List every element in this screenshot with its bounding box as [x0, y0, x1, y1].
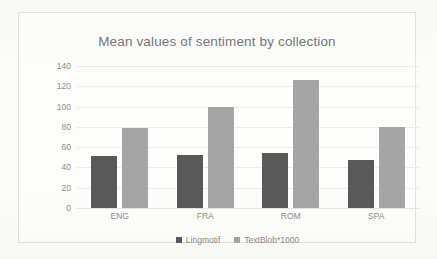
chart-figure: Mean values of sentiment by collection 0… [0, 0, 437, 259]
y-tick-label-0: 0 [66, 203, 71, 213]
x-tick-label-rom: ROM [281, 211, 301, 221]
legend-item-textblob1000[interactable]: TextBlob*1000 [234, 235, 299, 245]
x-tick-label-eng: ENG [111, 211, 129, 221]
bar-eng-lingmotif [91, 156, 117, 208]
bar-rom-lingmotif [262, 153, 288, 208]
chart-title: Mean values of sentiment by collection [19, 34, 415, 49]
y-tick-label-40: 40 [62, 162, 71, 172]
bar-spa-lingmotif [348, 160, 374, 208]
y-tick-label-100: 100 [57, 102, 71, 112]
x-axis-tick-labels: ENGFRAROMSPA [77, 211, 419, 225]
legend-item-lingmotif[interactable]: Lingmotif [176, 235, 221, 245]
bar-group-eng [77, 66, 163, 208]
gridline-0 [77, 208, 419, 209]
bar-fra-lingmotif [177, 155, 203, 208]
chart-plot-frame: Mean values of sentiment by collection 0… [18, 12, 416, 243]
bar-eng-textblob1000 [122, 128, 148, 208]
bar-group-fra [163, 66, 249, 208]
y-axis-tick-labels: 020406080100120140 [43, 66, 71, 208]
bar-spa-textblob1000 [379, 127, 405, 208]
bar-group-spa [334, 66, 420, 208]
chart-bars-area [77, 66, 419, 208]
y-tick-label-80: 80 [62, 122, 71, 132]
legend-swatch-icon [176, 237, 182, 243]
chart-legend: LingmotifTextBlob*1000 [19, 235, 437, 245]
bar-group-rom [248, 66, 334, 208]
bar-fra-textblob1000 [208, 107, 234, 208]
y-tick-label-20: 20 [62, 183, 71, 193]
x-tick-label-spa: SPA [368, 211, 384, 221]
bar-rom-textblob1000 [293, 80, 319, 208]
x-tick-label-fra: FRA [197, 211, 214, 221]
legend-label: Lingmotif [186, 235, 221, 245]
y-tick-label-120: 120 [57, 81, 71, 91]
legend-swatch-icon [234, 237, 240, 243]
y-tick-label-60: 60 [62, 142, 71, 152]
legend-label: TextBlob*1000 [244, 235, 299, 245]
y-tick-label-140: 140 [57, 61, 71, 71]
